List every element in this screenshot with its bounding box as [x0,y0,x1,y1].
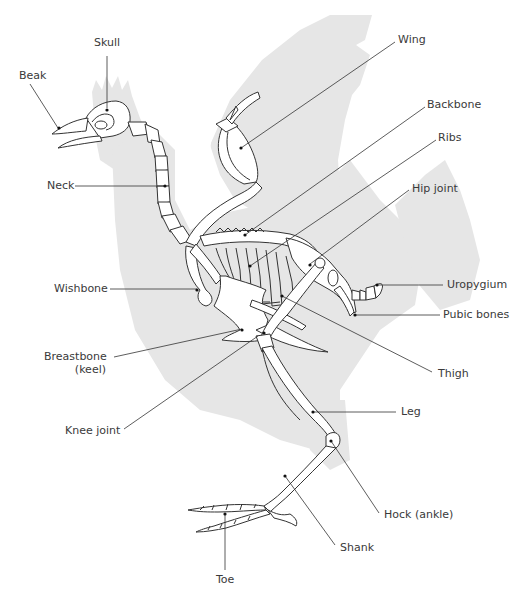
label-thigh: Thigh [438,367,469,380]
leader-beak [30,84,58,128]
label-neck: Neck [47,179,74,192]
lower-beak [58,136,102,148]
toes [188,504,297,532]
label-shank: Shank [340,541,374,554]
label-knee-joint: Knee joint [65,424,120,437]
label-breastbone: Breastbone (keel) [44,350,106,376]
label-wing: Wing [398,33,426,46]
leader-shank [285,476,335,545]
label-wishbone: Wishbone [54,282,108,295]
label-hock: Hock (ankle) [384,508,453,521]
label-backbone: Backbone [427,98,481,111]
label-hip-joint: Hip joint [412,182,458,195]
beak-bone [52,118,88,134]
label-leg: Leg [401,405,421,418]
label-breastbone-line2: (keel) [75,363,106,376]
shank-bone [264,446,336,512]
label-skull: Skull [94,36,120,49]
label-pubic-bones: Pubic bones [443,308,509,321]
label-breastbone-line1: Breastbone [44,350,107,363]
label-uropygium: Uropygium [447,278,507,291]
label-ribs: Ribs [438,131,461,144]
label-beak: Beak [19,69,46,82]
silhouette-gap [178,98,215,175]
leader-hock [331,441,379,513]
label-toe: Toe [216,573,234,586]
